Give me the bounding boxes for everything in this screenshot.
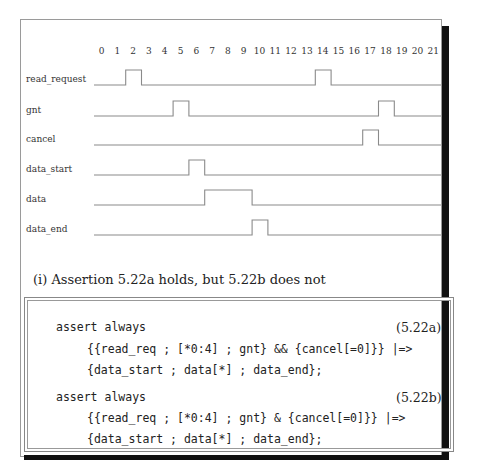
- assertion-b-line1: assert always: [56, 390, 146, 404]
- waveform-cancel: [94, 130, 441, 145]
- frame-shadow-bottom: [24, 455, 449, 460]
- waveform-read-request: [94, 70, 441, 85]
- assertion-b-line3: {data_start ; data[*] ; data_end};: [87, 432, 322, 446]
- waveform-gnt: [94, 101, 441, 116]
- assertion-b-line2: {{read_req ; [*0:4] ; gnt} & {cancel[=0]…: [87, 411, 406, 425]
- waveform-data: [94, 190, 441, 205]
- waveform-data-start: [94, 160, 441, 175]
- equation-number-b: (5.22b): [396, 390, 442, 405]
- assertion-a-line2: {{read_req ; [*0:4] ; gnt} && {cancel[=0…: [87, 342, 412, 356]
- equation-number-a: (5.22a): [396, 320, 441, 335]
- assertion-a-line3: {data_start ; data[*] ; data_end};: [87, 363, 322, 377]
- assertion-a-line1: assert always: [56, 320, 146, 334]
- subfigure-caption: (i) Assertion 5.22a holds, but 5.22b doe…: [33, 272, 326, 287]
- waveforms: [0, 0, 481, 260]
- waveform-data-end: [94, 220, 441, 235]
